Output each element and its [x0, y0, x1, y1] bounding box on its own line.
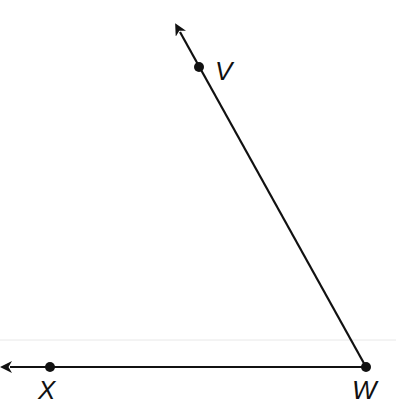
- label-v: V: [215, 56, 235, 86]
- point-v: [194, 62, 204, 72]
- label-w: W: [352, 375, 379, 405]
- angle-diagram: V X W: [0, 0, 396, 405]
- ray-wv: [180, 32, 366, 367]
- label-x: X: [37, 375, 57, 405]
- point-w: [361, 362, 371, 372]
- point-x: [45, 362, 55, 372]
